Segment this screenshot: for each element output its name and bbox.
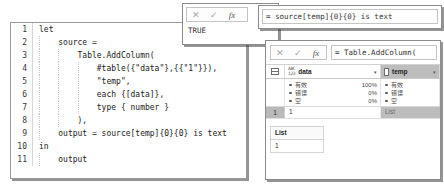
indent-guide [78, 75, 79, 88]
quality-line: 空0% [289, 97, 377, 105]
table-column-headers: ABC 123 data ▾ temp ▾ [266, 64, 440, 79]
quality-line: 有效 [385, 81, 436, 89]
line-number: 2 [11, 36, 33, 49]
line-number: 7 [11, 101, 33, 114]
function-icon[interactable]: fx [223, 8, 241, 21]
indent-guide [58, 49, 59, 62]
cancel-icon[interactable]: ✕ [187, 8, 205, 21]
advanced-editor-panel[interactable]: 1let2 source =3 Table.AddColumn(4 #table… [10, 22, 247, 179]
indent-guide [78, 62, 79, 75]
code-text: type { number } [33, 101, 246, 114]
confirm-icon[interactable]: ✓ [289, 46, 307, 59]
formula-bar-buttons-a: ✕ ✓ fx [186, 7, 248, 22]
code-text: "temp", [33, 75, 246, 88]
column-name-temp: temp [392, 68, 408, 75]
chevron-down-icon[interactable]: ▾ [433, 69, 436, 75]
quality-line: 错误 [385, 89, 436, 97]
code-line: 10in [11, 140, 246, 153]
query-preview-panel[interactable]: ✕ ✓ fx = Table.AddColumn( ABC 123 data ▾… [265, 40, 441, 180]
code-text: Table.AddColumn( [33, 49, 246, 62]
column-quality-temp: 有效错误空 [381, 79, 440, 106]
code-line: 7 type { number } [11, 101, 246, 114]
quality-gutter [266, 79, 285, 106]
code-line: 6 each {[data]}, [11, 88, 246, 101]
code-line: 4 #table({"data"},{{"1"}}), [11, 62, 246, 75]
row-number[interactable]: 1 [266, 107, 285, 118]
code-text: #table({"data"},{{"1"}}), [33, 62, 246, 75]
table-row[interactable]: 11List [266, 107, 440, 119]
code-line: 9 output = source[temp]{0}{0} is text [11, 127, 246, 140]
indent-guide [39, 62, 40, 75]
bullet-icon [289, 92, 292, 95]
cancel-icon[interactable]: ✕ [271, 46, 289, 59]
quality-percent: 100% [362, 81, 377, 89]
line-number: 10 [11, 140, 33, 153]
quality-label: 空 [391, 97, 437, 105]
bullet-icon [385, 100, 388, 103]
code-line: 3 Table.AddColumn( [11, 49, 246, 62]
quality-line: 错误0% [289, 89, 377, 97]
indent-guide [39, 101, 40, 114]
formula-input-b[interactable]: = source[temp]{0}{0} is text [262, 9, 438, 24]
line-number: 4 [11, 62, 33, 75]
code-text: output [33, 153, 246, 166]
indent-guide [39, 153, 40, 166]
code-line: 8 ), [11, 114, 246, 127]
indent-guide [58, 88, 59, 101]
select-all-cell[interactable] [266, 65, 285, 78]
quality-line: 空 [385, 97, 436, 105]
quality-percent: 0% [368, 89, 377, 97]
formula-bar-b[interactable]: = source[temp]{0}{0} is text [259, 6, 441, 23]
indent-guide [39, 36, 40, 49]
quality-label: 空 [295, 97, 369, 105]
code-text: ), [33, 114, 246, 127]
indent-guide [39, 88, 40, 101]
line-number: 3 [11, 49, 33, 62]
table-icon [271, 68, 279, 75]
formula-bar-c[interactable]: ✕ ✓ fx = Table.AddColumn( [266, 41, 440, 61]
code-text: output = source[temp]{0}{0} is text [33, 127, 246, 140]
code-editor[interactable]: 1let2 source =3 Table.AddColumn(4 #table… [11, 23, 246, 178]
confirm-icon[interactable]: ✓ [205, 8, 223, 21]
column-header-data[interactable]: ABC 123 data ▾ [285, 65, 381, 78]
list-type-icon [384, 68, 389, 76]
quality-list-data: 有效100%错误0%空0% [289, 81, 377, 105]
indent-guide [78, 101, 79, 114]
quality-label: 错误 [295, 89, 369, 97]
function-icon[interactable]: fx [307, 46, 325, 59]
line-number: 6 [11, 88, 33, 101]
indent-guide [58, 75, 59, 88]
quality-label: 有效 [391, 81, 437, 89]
table-body: 11List [266, 107, 440, 119]
list-preview-cell[interactable]: 1 [271, 140, 323, 152]
formula-input-c[interactable]: = Table.AddColumn( [331, 45, 437, 60]
chevron-down-icon[interactable]: ▾ [374, 69, 377, 75]
line-number: 8 [11, 114, 33, 127]
indent-guide [58, 101, 59, 114]
line-number: 5 [11, 75, 33, 88]
quality-percent: 0% [368, 97, 377, 105]
line-number: 1 [11, 23, 33, 36]
cell-temp[interactable]: List [381, 107, 440, 118]
code-line: 11 output [11, 153, 246, 166]
column-header-temp[interactable]: temp ▾ [381, 65, 440, 78]
cell-data[interactable]: 1 [285, 107, 381, 118]
indent-guide [39, 49, 40, 62]
indent-guide [78, 88, 79, 101]
code-text: each {[data]}, [33, 88, 246, 101]
line-number: 11 [11, 153, 33, 166]
list-preview-header: List [271, 127, 323, 140]
code-line: 5 "temp", [11, 75, 246, 88]
indent-guide [58, 62, 59, 75]
column-name-data: data [298, 68, 311, 75]
quality-label: 有效 [295, 81, 362, 89]
quality-list-temp: 有效错误空 [385, 81, 436, 105]
code-text: in [33, 140, 246, 153]
list-preview-body: 1 [271, 140, 323, 152]
type-icon-bottom: 123 [288, 72, 295, 77]
list-preview-table[interactable]: List 1 [270, 126, 324, 153]
formula-bar-buttons-c: ✕ ✓ fx [270, 45, 327, 60]
indent-guide [39, 114, 40, 127]
bullet-icon [289, 100, 292, 103]
formula-bar-panel[interactable]: = source[temp]{0}{0} is text [258, 5, 442, 29]
